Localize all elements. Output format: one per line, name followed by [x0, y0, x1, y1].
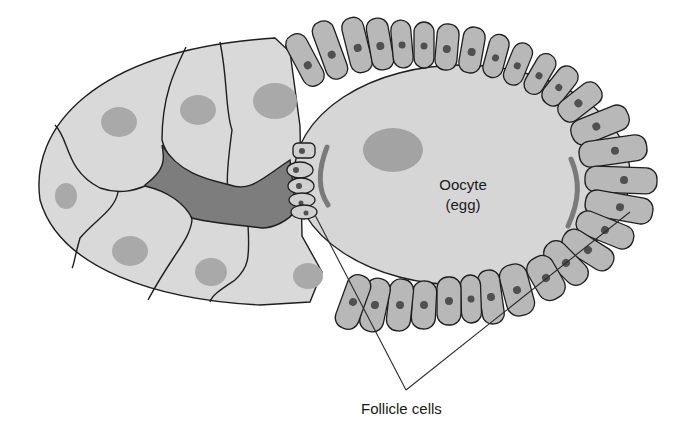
follicle-cells-label: Follicle cells — [361, 400, 442, 417]
egg-chamber-diagram: Oocyte (egg) Follicle cells — [0, 0, 688, 435]
oocyte-label: Oocyte — [439, 176, 487, 193]
oocyte-sublabel: (egg) — [445, 196, 480, 213]
oocyte-nucleus — [363, 128, 423, 172]
